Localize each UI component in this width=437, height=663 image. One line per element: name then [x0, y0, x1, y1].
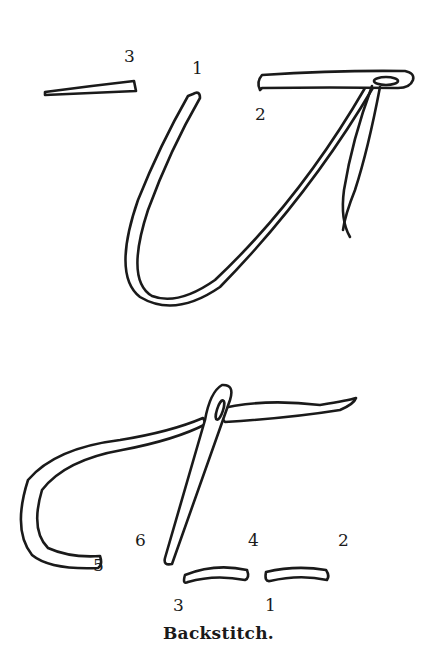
completed-stitch-3-4: [184, 567, 248, 582]
bottom-label-1: 1: [265, 595, 276, 615]
bottom-label-2: 2: [338, 530, 349, 550]
thread-through-eye: [215, 398, 356, 422]
top-label-3: 3: [124, 46, 135, 66]
backstitch-illustration: 3 1 2 6 4 2 5 3 1: [0, 0, 437, 663]
top-label-2: 2: [255, 104, 266, 124]
bottom-diagram: 6 4 2 5 3 1: [21, 385, 356, 615]
bottom-label-6: 6: [135, 530, 146, 550]
figure-caption: Backstitch.: [0, 623, 437, 643]
completed-stitch-top: [45, 81, 136, 95]
top-diagram: 3 1 2: [45, 46, 413, 305]
bottom-label-4: 4: [248, 530, 259, 550]
bottom-label-5: 5: [93, 555, 104, 575]
needle-eye-top: [374, 77, 398, 85]
thread-u-loop: [125, 86, 374, 305]
top-label-1: 1: [192, 58, 203, 78]
completed-stitch-1-2: [266, 568, 329, 581]
bottom-label-3: 3: [173, 595, 184, 615]
